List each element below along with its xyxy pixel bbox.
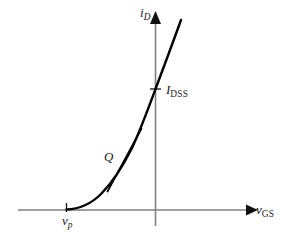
idss-label: IDSS bbox=[166, 83, 188, 99]
q-point-label-symbol: Q bbox=[104, 149, 113, 164]
x-axis-label-subscript: GS bbox=[262, 209, 274, 219]
vp-label-subscript: p bbox=[68, 220, 73, 230]
y-axis-arrowhead-icon bbox=[150, 11, 161, 24]
x-axis-label: vGS bbox=[256, 203, 274, 219]
y-axis-label: iD bbox=[140, 6, 150, 22]
q-point-label: Q bbox=[104, 150, 113, 163]
figure-canvas bbox=[0, 0, 289, 243]
vp-label: vp bbox=[62, 214, 72, 230]
transfer-characteristic-curve bbox=[67, 20, 182, 210]
jfet-transfer-characteristic-figure: iD vGS IDSS Q vp bbox=[0, 0, 289, 243]
y-axis-label-subscript: D bbox=[144, 12, 151, 22]
idss-label-subscript: DSS bbox=[170, 89, 188, 99]
